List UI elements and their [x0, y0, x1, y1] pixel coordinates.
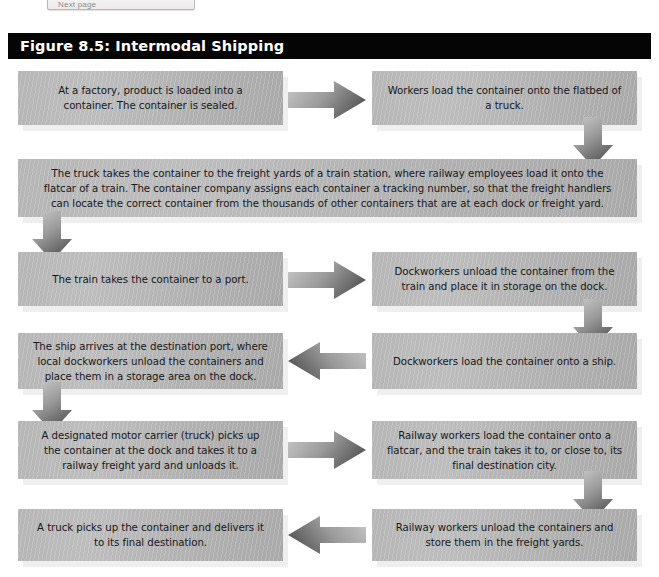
flow-node-label: At a factory, product is loaded into a c… — [18, 81, 283, 115]
cut-off-toolbar-widget[interactable]: Next page — [47, 0, 195, 10]
flow-node-label: The train takes the container to a port. — [38, 270, 262, 289]
flow-node-label: Dockworkers load the container onto a sh… — [379, 352, 630, 371]
flow-node-label: The truck takes the container to the fre… — [18, 164, 637, 213]
flow-node: A truck picks up the container and deliv… — [18, 509, 283, 561]
figure-title-bar: Figure 8.5: Intermodal Shipping — [8, 33, 651, 59]
flow-node: The train takes the container to a port. — [18, 252, 283, 306]
arrow-left — [288, 516, 366, 554]
figure-title: Figure 8.5: Intermodal Shipping — [8, 38, 284, 54]
flow-node: Dockworkers load the container onto a sh… — [372, 333, 637, 389]
intermodal-shipping-flowchart: At a factory, product is loaded into a c… — [0, 59, 659, 577]
flow-node-label: Railway workers unload the containers an… — [372, 518, 637, 552]
arrow-left — [288, 342, 366, 380]
flow-node-label: Railway workers load the container onto … — [372, 426, 637, 475]
arrow-right — [288, 81, 366, 119]
arrow-right — [288, 261, 366, 299]
flow-node: At a factory, product is loaded into a c… — [18, 71, 283, 125]
flow-node-label: Workers load the container onto the flat… — [372, 81, 637, 115]
flow-node-label: A truck picks up the container and deliv… — [18, 518, 283, 552]
flow-node-label: A designated motor carrier (truck) picks… — [18, 426, 283, 475]
cut-off-toolbar-label: Next page — [58, 0, 96, 9]
flow-node: A designated motor carrier (truck) picks… — [18, 421, 283, 479]
flow-node: The ship arrives at the destination port… — [18, 333, 283, 389]
flow-node: The truck takes the container to the fre… — [18, 159, 637, 217]
arrow-right — [288, 431, 366, 469]
flow-node: Railway workers unload the containers an… — [372, 509, 637, 561]
flow-node-label: Dockworkers unload the container from th… — [372, 262, 637, 296]
flow-node-label: The ship arrives at the destination port… — [18, 337, 283, 386]
flow-node: Dockworkers unload the container from th… — [372, 252, 637, 306]
